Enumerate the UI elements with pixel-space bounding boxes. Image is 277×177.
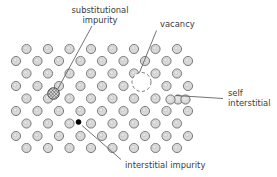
lattice-atom xyxy=(97,81,106,90)
lattice-atom xyxy=(162,106,171,115)
interstitial-impurity-label: interstitial impurity xyxy=(125,160,205,170)
lattice-atom xyxy=(129,119,138,128)
lattice-atom xyxy=(108,69,117,78)
lattice-atom xyxy=(119,106,128,115)
lattice-atom xyxy=(43,143,52,152)
lattice-atom xyxy=(172,44,181,53)
lattice-atom xyxy=(183,56,192,65)
lattice-atom xyxy=(54,131,63,140)
lattice-atom xyxy=(162,56,171,65)
lattice-atom xyxy=(151,119,160,128)
lattice-atom xyxy=(33,56,42,65)
lattice-atom xyxy=(33,106,42,115)
lattice-atom xyxy=(97,106,106,115)
lattice-atom xyxy=(22,44,31,53)
lattice-atom xyxy=(65,143,74,152)
lattice-atom xyxy=(86,69,95,78)
lattice-atom xyxy=(119,131,128,140)
self-interstitial-label-line2: interstitial xyxy=(228,98,271,108)
lattice-atom xyxy=(151,143,160,152)
lattice-atom xyxy=(22,119,31,128)
lattice-atom xyxy=(97,56,106,65)
lattice-atom xyxy=(172,119,181,128)
lattice-atom xyxy=(65,44,74,53)
lattice-atom xyxy=(43,69,52,78)
lattice-atom-grid xyxy=(11,44,192,152)
lattice-atom xyxy=(76,131,85,140)
lattice-atom xyxy=(183,131,192,140)
lattice-atom xyxy=(119,56,128,65)
lattice-atom xyxy=(11,56,20,65)
defect-diagram-figure: substitutional impurity vacancy self int… xyxy=(0,0,277,177)
lattice-atom xyxy=(86,143,95,152)
lattice-atom xyxy=(86,119,95,128)
substitutional-impurity-label-line2: impurity xyxy=(82,15,117,25)
lattice-atom xyxy=(11,81,20,90)
lattice-atom xyxy=(11,131,20,140)
lattice-atom xyxy=(33,81,42,90)
lattice-atom xyxy=(54,106,63,115)
lattice-atom xyxy=(151,44,160,53)
lattice-atom xyxy=(129,44,138,53)
vacancy-label: vacancy xyxy=(160,19,195,29)
lattice-atom xyxy=(76,56,85,65)
lattice-atom xyxy=(108,119,117,128)
lattice-atom xyxy=(162,81,171,90)
lattice-atom xyxy=(129,94,138,103)
lattice-atom xyxy=(97,131,106,140)
lattice-atom xyxy=(22,94,31,103)
lattice-atom xyxy=(172,143,181,152)
lattice-atom xyxy=(33,131,42,140)
lattice-atom xyxy=(86,94,95,103)
lattice-diagram-canvas: substitutional impurity vacancy self int… xyxy=(0,0,277,177)
lattice-atom xyxy=(108,94,117,103)
interstitial-impurity-leader xyxy=(82,126,121,160)
lattice-atom xyxy=(151,94,160,103)
lattice-atom xyxy=(65,119,74,128)
lattice-atom xyxy=(86,44,95,53)
lattice-atom xyxy=(172,69,181,78)
lattice-atom xyxy=(11,106,20,115)
lattice-atom xyxy=(162,131,171,140)
self-interstitial-neighbor-atom xyxy=(166,95,175,104)
lattice-atom xyxy=(65,94,74,103)
lattice-atom xyxy=(76,81,85,90)
lattice-atom xyxy=(108,143,117,152)
lattice-atom xyxy=(22,143,31,152)
lattice-atom xyxy=(151,69,160,78)
lattice-atom xyxy=(22,69,31,78)
interstitial-impurity-marker xyxy=(76,120,81,125)
lattice-atom xyxy=(119,81,128,90)
lattice-atom xyxy=(108,44,117,53)
lattice-atom xyxy=(43,44,52,53)
lattice-atom xyxy=(183,106,192,115)
lattice-atom xyxy=(140,131,149,140)
vacancy-marker xyxy=(132,73,151,92)
lattice-atom xyxy=(140,106,149,115)
lattice-atom xyxy=(43,119,52,128)
lattice-atom xyxy=(183,81,192,90)
lattice-atom xyxy=(76,106,85,115)
lattice-atom xyxy=(54,56,63,65)
substitutional-impurity-label-line1: substitutional xyxy=(71,5,128,15)
lattice-atom xyxy=(129,143,138,152)
self-interstitial-label-line1: self xyxy=(228,88,244,98)
